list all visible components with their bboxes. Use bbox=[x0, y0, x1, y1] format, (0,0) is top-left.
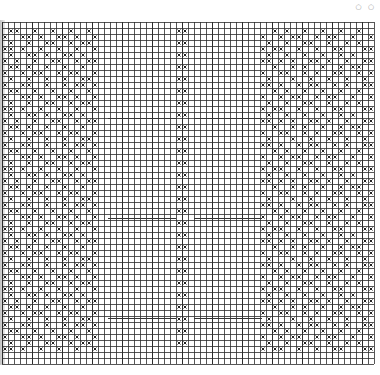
horizontal-rule bbox=[194, 318, 262, 319]
stitch-chart-grid bbox=[2, 22, 375, 365]
horizontal-rule bbox=[108, 118, 176, 119]
horizontal-rule bbox=[108, 318, 176, 319]
horizontal-rule bbox=[194, 118, 262, 119]
horizontal-rule bbox=[108, 218, 176, 219]
corner-marks: ○ ○ bbox=[356, 3, 376, 11]
horizontal-rule bbox=[194, 218, 262, 219]
